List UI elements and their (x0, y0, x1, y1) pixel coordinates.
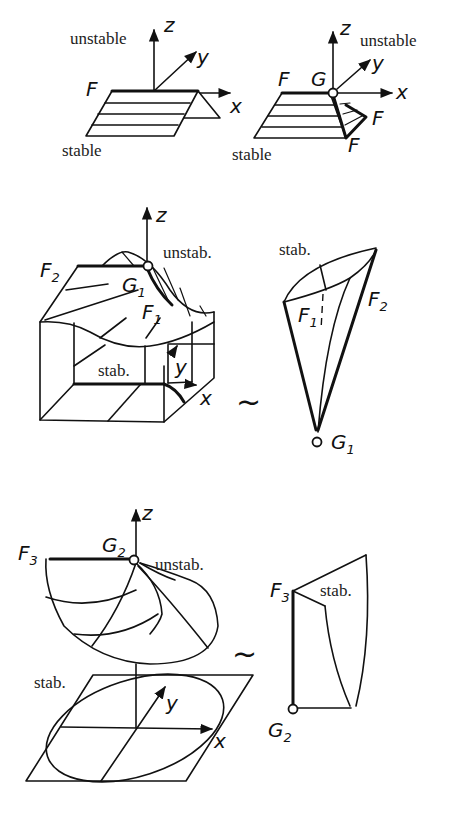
label-F-bottom: F (348, 133, 360, 157)
panel-3-surface: z F3 G2 unstab. stab. y x (18, 501, 253, 802)
label-z: z (339, 16, 351, 40)
cone-right-curve (356, 555, 368, 706)
label-y: y (174, 355, 188, 379)
fold-projection-curve (164, 384, 184, 402)
label-stable: stable (62, 141, 102, 160)
cusp-point-G1 (144, 262, 153, 271)
label-z: z (155, 203, 167, 227)
label-x: x (395, 80, 408, 104)
equivalence-symbol: ~ (236, 384, 261, 419)
y-axis-arrow (171, 346, 177, 355)
label-z: z (163, 13, 175, 37)
label-G2: G2 (102, 533, 126, 560)
label-y: y (165, 691, 179, 715)
cone-edge-F2 (318, 250, 376, 430)
panel-3-cone: F3 stab. G2 (268, 555, 368, 745)
label-F1: F1 (142, 300, 162, 327)
label-F-right: F (372, 106, 384, 130)
x-axis-arrow (186, 384, 196, 385)
y-axis-arrow (154, 52, 196, 91)
cusp-point-G (329, 89, 338, 98)
unstable-sheet (184, 91, 220, 118)
label-z: z (141, 501, 153, 525)
equivalence-symbol: ~ (232, 636, 257, 671)
label-unstable: unstable (360, 31, 417, 50)
label-G2: G2 (268, 718, 292, 745)
cusp-point-G2 (130, 556, 139, 565)
label-unstab: unstab. (163, 243, 212, 262)
label-stable: stable (232, 145, 272, 164)
cusp-point-G2 (289, 705, 298, 714)
label-stab: stab. (279, 240, 311, 259)
panel-2-surface: z unstab. F2 G1 F1 stab. y x (40, 203, 214, 422)
label-y: y (196, 45, 210, 69)
label-stab: stab. (34, 673, 66, 692)
label-F3: F3 (18, 541, 38, 568)
panel-1a-half-plane: unstable z y x F stable (62, 13, 242, 160)
label-G: G (311, 67, 327, 91)
panel-2-cone: stab. F1 F2 G1 (279, 240, 388, 457)
surface-lower-edge (40, 322, 214, 347)
label-G1: G1 (331, 430, 355, 457)
label-G1: G1 (122, 273, 146, 300)
cone-inner-curve (318, 278, 350, 432)
label-F1: F1 (298, 303, 318, 330)
label-F: F (86, 77, 98, 101)
panel-1b-corner: z unstable y x F G F F stable (232, 16, 417, 164)
label-y: y (371, 51, 385, 75)
cusp-point-G1 (313, 438, 322, 447)
label-x: x (229, 94, 242, 118)
label-x: x (213, 729, 226, 753)
y-axis-arrow (337, 60, 370, 89)
y-axis-arrow (101, 687, 165, 781)
label-F2: F2 (368, 287, 388, 314)
label-F3: F3 (270, 578, 290, 605)
label-stab: stab. (98, 361, 130, 380)
label-unstab: unstab. (155, 555, 204, 574)
label-unstable: unstable (70, 29, 127, 48)
label-F: F (278, 67, 290, 91)
label-F2: F2 (40, 258, 60, 285)
stability-diagram: unstable z y x F stable z unstable y x F… (0, 0, 454, 815)
label-x: x (199, 386, 212, 410)
label-stab: stab. (320, 581, 352, 600)
